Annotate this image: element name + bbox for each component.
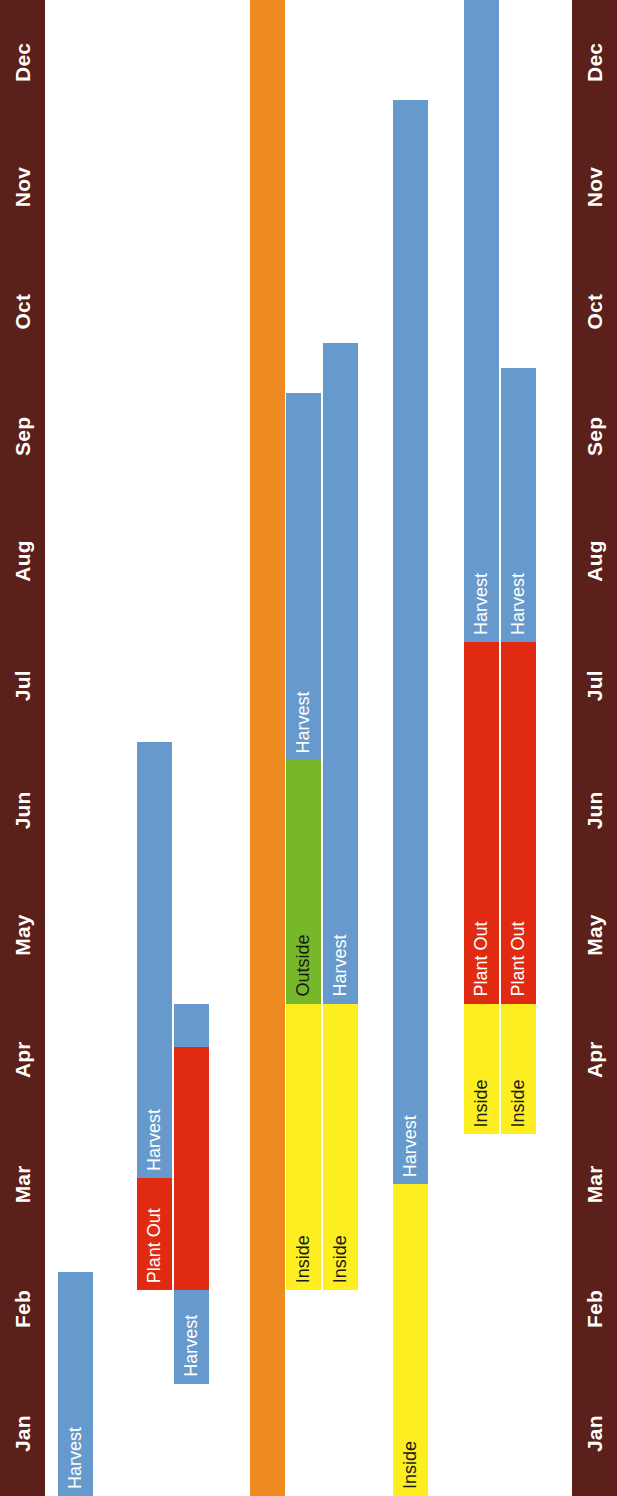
chart-row: InsideOutsideHarvest	[393, 0, 428, 1496]
bar-label: Inside	[501, 1079, 536, 1134]
bar-segment-plant_out[interactable]: Plant Out	[464, 642, 499, 1004]
bar-label: Harvest	[323, 935, 358, 1004]
month-label-mar: Mar	[572, 1122, 617, 1247]
chart-row: Harvest	[174, 0, 209, 1496]
bar-segment-harvest[interactable]: Harvest	[323, 343, 358, 1004]
month-label-jun: Jun	[572, 748, 617, 873]
crop-calendar-chart: JanFebMarAprMayJunJulAugSepOctNovDec Har…	[0, 0, 617, 1496]
month-label-jan: Jan	[572, 1371, 617, 1496]
chart-row: Plant OutHarvest	[137, 0, 172, 1496]
month-label-jul: Jul	[572, 623, 617, 748]
bar-segment-inside[interactable]: Inside	[393, 1184, 428, 1496]
bar-label: Plant Out	[501, 922, 536, 1004]
month-label-may: May	[0, 873, 45, 998]
bar-label: Inside	[323, 1235, 358, 1290]
month-label-jul: Jul	[0, 623, 45, 748]
month-label-oct: Oct	[572, 249, 617, 374]
month-label-sep: Sep	[0, 374, 45, 499]
bar-segment-plant_out[interactable]	[174, 1047, 209, 1290]
month-label-sep: Sep	[572, 374, 617, 499]
bar-segment-harvest[interactable]: Harvest	[501, 368, 536, 642]
chart-row: InsidePlant OutHarvest	[501, 0, 536, 1496]
bar-segment-harvest[interactable]: Harvest	[137, 742, 172, 1178]
bar-label: Inside	[464, 1079, 499, 1134]
month-label-feb: Feb	[0, 1247, 45, 1372]
bar-label: Outside	[286, 935, 321, 1004]
month-label-may: May	[572, 873, 617, 998]
bar-label: Harvest	[393, 1115, 428, 1184]
month-axis-bottom: JanFebMarAprMayJunJulAugSepOctNovDec	[572, 0, 617, 1496]
bar-label: Harvest	[137, 1109, 172, 1178]
month-label-oct: Oct	[0, 249, 45, 374]
month-label-mar: Mar	[0, 1122, 45, 1247]
month-label-aug: Aug	[572, 499, 617, 624]
month-label-aug: Aug	[0, 499, 45, 624]
bar-segment-outside[interactable]: Outside	[286, 760, 321, 1003]
month-label-jan: Jan	[0, 1371, 45, 1496]
bar-label: Harvest	[501, 573, 536, 642]
bar-label: Plant Out	[137, 1208, 172, 1290]
month-label-nov: Nov	[572, 125, 617, 250]
bar-label: Plant Out	[464, 922, 499, 1004]
month-label-nov: Nov	[0, 125, 45, 250]
month-label-dec: Dec	[572, 0, 617, 125]
bar-label: Harvest	[286, 691, 321, 760]
bar-segment-harvest[interactable]: Harvest	[286, 393, 321, 761]
bar-label: Inside	[286, 1235, 321, 1290]
month-label-feb: Feb	[572, 1247, 617, 1372]
chart-row: InsideOutsideHarvest	[323, 0, 358, 1496]
chart-row: InsideOutsideHarvest	[286, 0, 321, 1496]
chart-plot-area: HarvestAsparagusPlant OutHarvestPerpetua…	[45, 0, 572, 1496]
chart-row	[250, 0, 285, 1496]
bar-segment-harvest[interactable]: Harvest	[58, 1272, 93, 1496]
bar-segment-inside[interactable]: Inside	[501, 1004, 536, 1135]
bar-segment-inside[interactable]: Inside	[286, 1004, 321, 1291]
chart-row: Harvest	[58, 0, 93, 1496]
bar-segment-harvest[interactable]: Harvest	[464, 0, 499, 642]
group-header-band	[250, 0, 285, 1496]
chart-canvas: JanFebMarAprMayJunJulAugSepOctNovDec Har…	[0, 0, 617, 1496]
bar-segment-inside[interactable]: Inside	[464, 1004, 499, 1135]
bar-segment-plant_out[interactable]: Plant Out	[501, 642, 536, 1004]
bar-segment-inside[interactable]: Inside	[323, 1004, 358, 1291]
bar-label: Harvest	[174, 1315, 209, 1384]
month-axis-top: JanFebMarAprMayJunJulAugSepOctNovDec	[0, 0, 45, 1496]
month-label-apr: Apr	[0, 997, 45, 1122]
bar-label: Inside	[393, 1441, 428, 1496]
month-label-jun: Jun	[0, 748, 45, 873]
month-label-dec: Dec	[0, 0, 45, 125]
bar-segment-harvest[interactable]: Harvest	[393, 100, 428, 1185]
month-label-apr: Apr	[572, 997, 617, 1122]
chart-row: InsidePlant OutHarvest	[464, 0, 499, 1496]
bar-label: Harvest	[58, 1427, 93, 1496]
bar-label: Harvest	[464, 573, 499, 642]
